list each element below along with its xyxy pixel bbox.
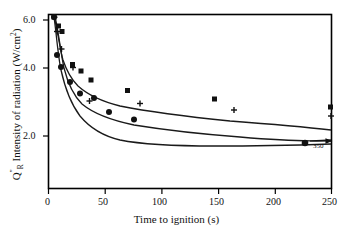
x-axis-title: Time to ignition (s) bbox=[0, 213, 353, 225]
chart-plot-area bbox=[0, 0, 353, 229]
y-axis-text: Intensity of radiation (W/cm bbox=[10, 36, 22, 164]
y-axis-exponent: 2 bbox=[9, 32, 18, 36]
y-axis-symbol-subscript: R bbox=[16, 164, 25, 169]
x-tick-label-200: 200 bbox=[266, 196, 281, 207]
y-axis-title: Q"R Intensity of radiation (W/cm2) bbox=[9, 24, 26, 184]
x-axis-ticks bbox=[49, 189, 332, 195]
offscale-annotation-label: 350 bbox=[313, 142, 324, 150]
y-tick-label-6: 6.0 bbox=[23, 14, 36, 25]
x-tick-label-50: 50 bbox=[98, 196, 108, 207]
x-tick-label-100: 100 bbox=[152, 196, 167, 207]
x-tick-label-150: 150 bbox=[209, 196, 224, 207]
x-tick-label-0: 0 bbox=[45, 196, 50, 207]
y-axis-ticks bbox=[43, 20, 49, 136]
figure-container: 6.0 4.0 2.0 0 50 100 150 200 250 350 Tim… bbox=[0, 0, 353, 229]
y-axis-symbol-prime: " bbox=[9, 169, 18, 172]
x-tick-label-250: 250 bbox=[322, 196, 337, 207]
y-axis-symbol: Q bbox=[10, 172, 22, 180]
y-axis-text-end: ) bbox=[10, 29, 22, 33]
